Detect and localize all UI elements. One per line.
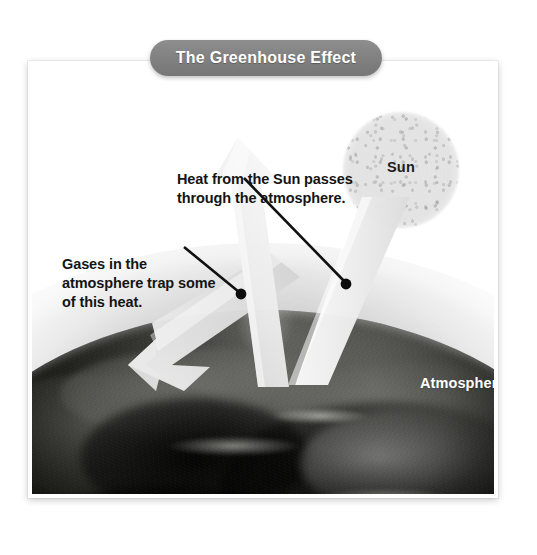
atmosphere-label: Atmosphere (420, 375, 494, 391)
figure-canvas: Sun (32, 65, 494, 494)
illustration-stage: Sun (0, 0, 537, 555)
figure-frame: Sun (28, 61, 498, 498)
title-pill: The Greenhouse Effect (150, 40, 382, 76)
callout-gases-trap-heat: Gases in the atmosphere trap some of thi… (62, 255, 227, 312)
incoming-solar-beam (288, 197, 410, 385)
callout-heat-from-sun: Heat from the Sun passes through the atm… (177, 170, 367, 208)
page-title: The Greenhouse Effect (176, 49, 356, 67)
